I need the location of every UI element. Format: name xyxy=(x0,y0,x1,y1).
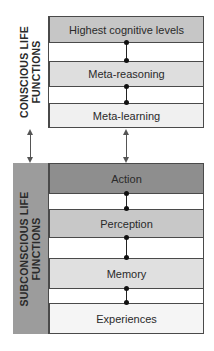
conscious-label-panel: CONSCIOUS LIFE FUNCTIONS xyxy=(13,16,49,128)
connector-dot xyxy=(124,300,129,305)
connector-dot xyxy=(124,286,129,291)
box-label: Experiences xyxy=(96,313,157,325)
box-label: Highest cognitive levels xyxy=(69,24,184,36)
subconscious-label: SUBCONSCIOUS LIFE FUNCTIONS xyxy=(19,191,43,306)
connector-dot xyxy=(124,206,129,211)
conscious-label: CONSCIOUS LIFE FUNCTIONS xyxy=(19,26,43,118)
arrow-line xyxy=(126,134,127,158)
box-label: Memory xyxy=(107,268,147,280)
subconscious-label-panel: SUBCONSCIOUS LIFE FUNCTIONS xyxy=(13,163,49,334)
connector-dot xyxy=(124,235,129,240)
connector-dot xyxy=(124,58,129,63)
connector-dot xyxy=(124,100,129,105)
box-label: Action xyxy=(111,173,142,185)
box-label: Meta-learning xyxy=(93,110,160,122)
box-perception: Perception xyxy=(49,209,204,238)
connector-dot xyxy=(124,191,129,196)
connector-dot xyxy=(124,40,129,45)
connector-dot xyxy=(124,255,129,260)
box-experiences: Experiences xyxy=(49,303,204,334)
box-memory: Memory xyxy=(49,258,204,289)
conscious-label-line2: FUNCTIONS xyxy=(31,26,43,118)
subconscious-label-line1: SUBCONSCIOUS LIFE xyxy=(19,191,31,306)
box-label: Meta-reasoning xyxy=(88,68,164,80)
connector-dot xyxy=(124,84,129,89)
conscious-label-line1: CONSCIOUS LIFE xyxy=(19,26,31,118)
arrow-line xyxy=(30,134,31,158)
subconscious-label-line2: FUNCTIONS xyxy=(31,191,43,306)
box-highest-cognitive-levels: Highest cognitive levels xyxy=(49,16,204,43)
box-meta-learning: Meta-learning xyxy=(49,103,204,128)
box-action: Action xyxy=(49,163,204,194)
box-label: Perception xyxy=(100,218,153,230)
